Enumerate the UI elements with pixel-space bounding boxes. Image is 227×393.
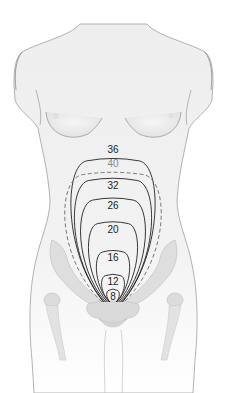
label-week-36: 36: [107, 144, 119, 155]
label-week-16: 16: [107, 252, 119, 263]
label-week-32: 32: [107, 180, 119, 191]
label-week-12: 12: [107, 276, 119, 287]
right-nipple: [169, 114, 173, 118]
label-week-26: 26: [107, 200, 119, 211]
left-nipple: [54, 114, 58, 118]
fundal-height-diagram: 364032262016128: [0, 0, 227, 393]
label-week-40: 40: [107, 158, 119, 169]
label-week-20: 20: [107, 224, 119, 235]
label-week-8: 8: [110, 291, 116, 302]
